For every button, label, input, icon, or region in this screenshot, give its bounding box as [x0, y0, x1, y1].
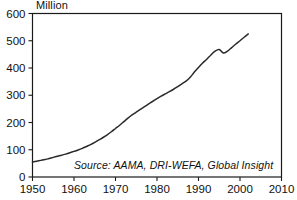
y-tick-label: 100: [6, 144, 25, 156]
y-tick-label: 300: [6, 89, 25, 101]
x-axis-ticks: 1950196019701980199020002010: [20, 177, 295, 195]
x-tick-label: 1980: [144, 183, 170, 195]
x-tick-label: 2000: [227, 183, 253, 195]
data-series-line: [33, 34, 249, 162]
y-tick-label: 400: [6, 62, 25, 74]
source-note: Source: AAMA, DRI-WEFA, Global Insight: [74, 159, 274, 171]
x-tick-label: 2010: [269, 183, 295, 195]
y-tick-label: 200: [6, 117, 25, 129]
x-tick-label: 1970: [103, 183, 129, 195]
x-tick-label: 1990: [186, 183, 212, 195]
line-chart-plot: 0100200300400500600 19501960197019801990…: [0, 0, 297, 200]
y-axis-ticks: 0100200300400500600: [6, 8, 32, 184]
x-tick-label: 1960: [61, 183, 87, 195]
y-tick-label: 600: [6, 8, 25, 20]
x-tick-label: 1950: [20, 183, 46, 195]
y-tick-label: 0: [19, 171, 25, 183]
chart-figure: Million 0100200300400500600 195019601970…: [0, 0, 297, 200]
y-tick-label: 500: [6, 35, 25, 47]
